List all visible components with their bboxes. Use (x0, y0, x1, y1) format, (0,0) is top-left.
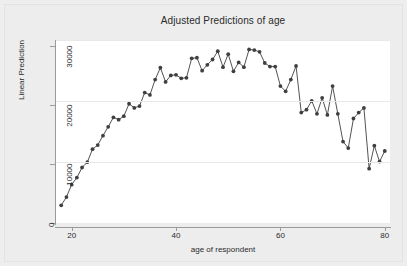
chart-title: Adjusted Predictions of age (56, 15, 390, 26)
data-point (80, 166, 84, 170)
data-point (91, 147, 95, 151)
y-tick-label-10000: 10000 (65, 163, 74, 185)
x-tick-label-60: 60 (276, 231, 285, 240)
figure-inner-panel: Adjusted Predictions of age 010000200003… (4, 4, 403, 262)
data-point (362, 106, 366, 110)
y-tick-10000 (50, 164, 55, 165)
data-point (211, 58, 215, 62)
data-point (216, 49, 220, 53)
y-tick-20000 (50, 105, 55, 106)
data-point (279, 84, 283, 88)
x-axis-line (55, 227, 391, 228)
data-point (190, 56, 194, 60)
data-point (320, 96, 324, 100)
y-tick-30000 (50, 46, 55, 47)
data-point (221, 65, 225, 69)
x-tick-label-40: 40 (172, 231, 181, 240)
data-point (383, 149, 387, 153)
data-point (179, 76, 183, 80)
x-tick-label-80: 80 (380, 231, 389, 240)
data-point (346, 146, 350, 150)
data-point (336, 112, 340, 116)
data-point (169, 74, 173, 78)
data-series-line (56, 40, 390, 223)
data-point (153, 78, 157, 82)
y-tick-label-30000: 30000 (65, 45, 74, 67)
x-axis-title: age of respondent (56, 245, 390, 254)
data-point (117, 118, 121, 122)
data-point (352, 117, 356, 121)
data-point (325, 113, 329, 117)
data-point (122, 114, 126, 118)
data-point (112, 115, 116, 119)
gridline-10000 (56, 162, 390, 163)
data-point (367, 167, 371, 171)
gridline-30000 (56, 40, 390, 41)
y-axis-line (55, 40, 56, 225)
data-point (205, 63, 209, 67)
data-point (341, 140, 345, 144)
data-point (132, 106, 136, 110)
data-point (268, 65, 272, 69)
data-point (143, 91, 147, 95)
data-point (242, 65, 246, 69)
data-point (59, 203, 63, 207)
plot-area (56, 40, 390, 223)
data-point (357, 111, 361, 115)
data-point (289, 78, 293, 82)
data-point (195, 56, 199, 60)
data-point (185, 76, 189, 80)
data-point (226, 52, 230, 56)
data-point (232, 69, 236, 73)
data-point (158, 66, 162, 70)
data-point (331, 84, 335, 88)
data-point (200, 69, 204, 73)
data-point (273, 65, 277, 69)
data-point (75, 176, 79, 180)
data-point (101, 134, 105, 138)
data-point (127, 102, 131, 106)
data-point (148, 93, 152, 97)
data-point (96, 143, 100, 147)
data-point (138, 104, 142, 108)
data-point (164, 80, 168, 84)
gridline-20000 (56, 101, 390, 102)
figure-container: Adjusted Predictions of age 010000200003… (0, 0, 407, 266)
data-point (315, 112, 319, 116)
data-point (174, 73, 178, 77)
data-point (65, 195, 69, 199)
data-point (372, 144, 376, 148)
data-point (299, 111, 303, 115)
data-point (258, 50, 262, 54)
data-point (106, 125, 110, 129)
data-point (284, 89, 288, 93)
x-tick-label-20: 20 (67, 231, 76, 240)
y-axis-title: Linear Prediction (17, 40, 26, 100)
y-tick-label-0: 0 (47, 223, 56, 227)
data-point (294, 64, 298, 68)
data-point (263, 61, 267, 65)
data-point (237, 61, 241, 65)
data-point (252, 48, 256, 52)
data-point (305, 108, 309, 112)
y-tick-label-20000: 20000 (65, 104, 74, 126)
data-point (247, 48, 251, 52)
